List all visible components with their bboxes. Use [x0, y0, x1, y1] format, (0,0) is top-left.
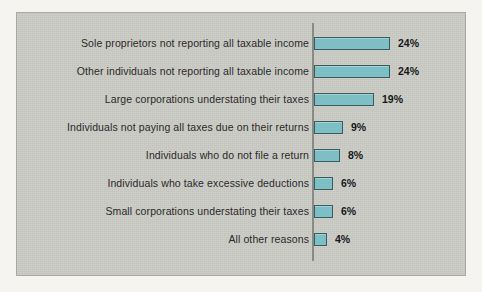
bar-value-label: 8% [348, 150, 363, 161]
bar-category-label: Large corporations understating their ta… [29, 94, 309, 105]
bar-group: 24% [314, 57, 419, 85]
bar-row: Large corporations understating their ta… [17, 85, 467, 113]
bar-row: Individuals who take excessive deduction… [17, 169, 467, 197]
bar-category-label: Other individuals not reporting all taxa… [29, 66, 309, 77]
bar-row: Individuals not paying all taxes due on … [17, 113, 467, 141]
chart-page: Sole proprietors not reporting all taxab… [0, 0, 482, 292]
bar-category-label: Individuals who do not file a return [29, 150, 309, 161]
bar-group: 4% [314, 225, 350, 253]
bar-category-label: All other reasons [29, 234, 309, 245]
bar-value-label: 9% [351, 122, 366, 133]
bar-category-label: Individuals who take excessive deduction… [29, 178, 309, 189]
bar [314, 149, 340, 162]
bar-value-label: 19% [382, 94, 403, 105]
bar [314, 177, 333, 190]
bar-value-label: 24% [398, 66, 419, 77]
bar-value-label: 24% [398, 38, 419, 49]
bar-group: 8% [314, 141, 363, 169]
bar-group: 19% [314, 85, 403, 113]
bar [314, 121, 343, 134]
bar-group: 6% [314, 197, 356, 225]
bar-row: Small corporations understating their ta… [17, 197, 467, 225]
bar-group: 6% [314, 169, 356, 197]
bar-category-label: Sole proprietors not reporting all taxab… [29, 38, 309, 49]
bar-category-label: Small corporations understating their ta… [29, 206, 309, 217]
bar-group: 24% [314, 29, 419, 57]
bar [314, 37, 390, 50]
plot-area: Sole proprietors not reporting all taxab… [17, 13, 467, 277]
bar-category-label: Individuals not paying all taxes due on … [29, 122, 309, 133]
bar [314, 65, 390, 78]
bar-group: 9% [314, 113, 366, 141]
bar-value-label: 6% [341, 178, 356, 189]
bar-row: Sole proprietors not reporting all taxab… [17, 29, 467, 57]
bar-value-label: 4% [335, 234, 350, 245]
bar-value-label: 6% [341, 206, 356, 217]
bar-row: All other reasons 4% [17, 225, 467, 253]
chart-panel: Sole proprietors not reporting all taxab… [16, 12, 466, 276]
bar [314, 93, 374, 106]
bar-row: Other individuals not reporting all taxa… [17, 57, 467, 85]
bar-row: Individuals who do not file a return 8% [17, 141, 467, 169]
bar [314, 233, 327, 246]
bar [314, 205, 333, 218]
